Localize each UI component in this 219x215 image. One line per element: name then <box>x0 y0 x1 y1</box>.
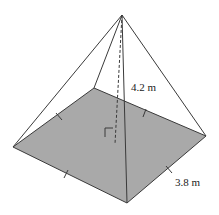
height-label: 4.2 m <box>131 81 157 93</box>
base-side-label: 3.8 m <box>175 176 201 188</box>
pyramid-diagram: 4.2 m 3.8 m <box>0 0 219 215</box>
edge-apex-back <box>94 15 122 88</box>
